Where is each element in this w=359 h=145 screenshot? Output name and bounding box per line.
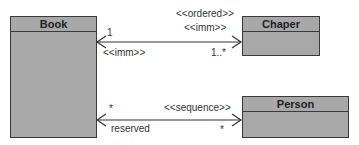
book-chapter-target-stereotype-ordered: <<ordered>> xyxy=(176,8,234,19)
class-person[interactable]: Person xyxy=(242,96,349,138)
class-book-name: Book xyxy=(11,17,96,32)
book-chapter-target-multiplicity: 1..* xyxy=(211,47,226,58)
book-person-source-multiplicity: * xyxy=(109,103,113,114)
class-chapter[interactable]: Chaper xyxy=(242,16,320,56)
class-book[interactable]: Book xyxy=(10,16,97,138)
book-chapter-source-multiplicity: 1 xyxy=(107,27,113,38)
class-chapter-name: Chaper xyxy=(243,17,319,32)
book-person-source-role: reserved xyxy=(111,123,150,134)
book-person-target-stereotype: <<sequence>> xyxy=(164,102,231,113)
book-chapter-source-stereotype: <<imm>> xyxy=(103,47,145,58)
book-person-target-multiplicity: * xyxy=(220,124,224,135)
book-chapter-target-stereotype-imm: <<imm>> xyxy=(184,22,226,33)
class-person-name: Person xyxy=(243,97,348,112)
